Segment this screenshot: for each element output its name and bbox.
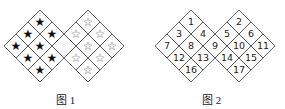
cell-number: 3 [176,28,182,39]
cell-number: 14 [221,52,233,63]
cell-number: 11 [257,40,269,51]
white-star-icon: ☆ [95,27,106,41]
black-star-icon: ★ [23,51,34,65]
figure2-caption: 图 2 [202,91,221,107]
white-star-icon: ☆ [83,63,94,77]
black-star-icon: ★ [47,51,58,65]
figure1-caption: 图 1 [56,91,75,107]
black-star-icon: ★ [35,63,46,77]
cell-number: 10 [233,40,245,51]
cell-number: 8 [188,40,194,51]
white-star-icon: ☆ [71,27,82,41]
white-star-icon: ☆ [83,15,94,29]
white-star-icon: ☆ [95,51,106,65]
black-star-icon: ★ [23,27,34,41]
white-star-icon: ☆ [83,39,94,53]
cell-number: 6 [248,28,254,39]
cell-number: 7 [164,40,170,51]
cell-number: 13 [197,52,209,63]
cell-number: 15 [245,52,257,63]
cell-number: 9 [212,40,218,51]
cell-number: 5 [224,28,230,39]
cell-number: 2 [236,16,242,27]
cell-number: 12 [173,52,185,63]
black-star-icon: ★ [35,15,46,29]
black-star-icon: ★ [11,39,22,53]
cell-number: 4 [200,28,206,39]
black-star-icon: ★ [47,27,58,41]
white-star-icon: ☆ [107,39,118,53]
cell-number: 16 [185,64,197,75]
cell-number: 1 [188,16,194,27]
cell-number: 17 [233,64,245,75]
black-star-icon: ★ [35,39,46,53]
figures-canvas: ★★★★★★★★☆☆☆☆☆☆☆☆123456789101112131415161… [0,0,285,109]
white-star-icon: ☆ [71,51,82,65]
